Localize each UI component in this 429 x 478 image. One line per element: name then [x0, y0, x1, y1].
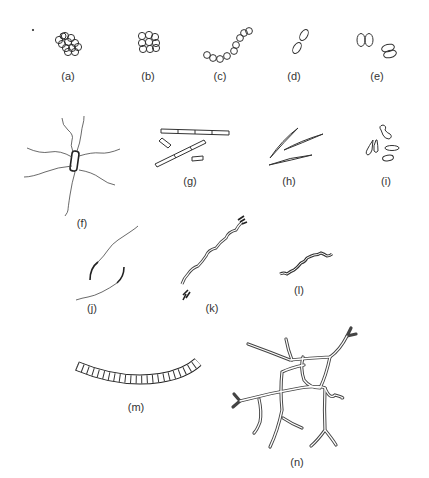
label-n: (n): [290, 456, 303, 468]
panel-a-cluster: [32, 29, 81, 55]
panel-m-filament: [77, 362, 198, 380]
panel-e-diplococci: [357, 34, 397, 60]
label-b: (b): [141, 70, 154, 82]
panel-j-curved-rods: [76, 226, 138, 300]
panel-l-spirochete: [280, 253, 332, 274]
label-k: (k): [206, 302, 219, 314]
panel-k-spirillum: [182, 216, 247, 300]
label-c: (c): [214, 70, 227, 82]
panel-n-mycelium: [233, 328, 356, 447]
label-m: (m): [128, 401, 145, 413]
panel-b-packet: [138, 31, 159, 52]
panel-i-clubs: [366, 125, 399, 162]
label-i: (i): [381, 175, 391, 187]
panel-g-rods: [155, 129, 229, 167]
label-g: (g): [183, 175, 196, 187]
label-e: (e): [370, 70, 383, 82]
panel-d-pair: [291, 28, 310, 55]
label-d: (d): [287, 70, 300, 82]
label-f: (f): [77, 217, 87, 229]
label-l: (l): [294, 284, 304, 296]
panel-c-chain: [204, 28, 253, 63]
panel-f-flagellated-rod: [24, 116, 120, 216]
panel-h-fusiform: [269, 128, 323, 165]
label-a: (a): [61, 70, 74, 82]
label-h: (h): [282, 175, 295, 187]
label-j: (j): [87, 302, 97, 314]
